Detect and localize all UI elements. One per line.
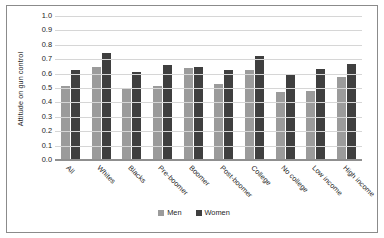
gridline-0.7 <box>55 59 362 60</box>
y-tick-0.8: 0.8 <box>42 41 52 49</box>
x-tick-cell: High income <box>331 162 362 210</box>
y-tick-0.9: 0.9 <box>42 26 52 34</box>
gridline-0.4 <box>55 102 362 103</box>
bar-men-post-boomer <box>214 84 223 159</box>
gridline-1.0 <box>55 16 362 17</box>
gridline-0.0 <box>55 160 362 161</box>
bar-men-high-income <box>337 77 346 159</box>
chart-legend: MenWomen <box>18 208 370 217</box>
x-tick-cell: Whites <box>86 162 117 210</box>
x-tick-cell: Low income <box>301 162 332 210</box>
legend-label-women: Women <box>205 208 230 217</box>
gridline-0.8 <box>55 45 362 46</box>
legend-swatch-women <box>196 210 202 216</box>
x-tick-whites: Whites <box>95 164 117 186</box>
x-tick-cell: College <box>239 162 270 210</box>
plot-area <box>55 16 362 160</box>
legend-swatch-men <box>158 210 164 216</box>
x-axis-tick-labels: AllWhitesBlacksPre-boomerBoomerPost-boom… <box>55 162 362 210</box>
bar-women-whites <box>102 53 111 159</box>
bar-men-pre-boomer <box>153 86 162 159</box>
x-tick-cell: Boomer <box>178 162 209 210</box>
y-tick-1.0: 1.0 <box>42 12 52 20</box>
y-tick-0.3: 0.3 <box>42 113 52 121</box>
y-tick-0.7: 0.7 <box>42 55 52 63</box>
gridline-0.6 <box>55 74 362 75</box>
chart-figure: Attitude on gun control 1.00.90.80.70.60… <box>0 0 384 238</box>
bar-men-blacks <box>122 88 131 159</box>
legend-label-men: Men <box>167 208 181 217</box>
y-axis-tick-labels: 1.00.90.80.70.60.50.40.30.20.10.0 <box>30 16 52 164</box>
plot-wrapper: Attitude on gun control 1.00.90.80.70.60… <box>18 12 370 226</box>
bar-men-low-income <box>306 91 315 159</box>
gridline-0.3 <box>55 117 362 118</box>
x-tick-blacks: Blacks <box>126 164 147 185</box>
x-tick-all: All <box>65 164 77 176</box>
x-tick-cell: All <box>55 162 86 210</box>
gridline-0.9 <box>55 30 362 31</box>
y-tick-0.6: 0.6 <box>42 70 52 78</box>
y-axis-title: Attitude on gun control <box>16 14 28 164</box>
gridline-0.2 <box>55 131 362 132</box>
gridline-0.1 <box>55 146 362 147</box>
x-tick-cell: Pre-boomer <box>147 162 178 210</box>
gridline-0.5 <box>55 88 362 89</box>
y-tick-0.5: 0.5 <box>42 84 52 92</box>
x-tick-cell: No college <box>270 162 301 210</box>
legend-item-men: Men <box>158 208 181 217</box>
x-tick-cell: Blacks <box>116 162 147 210</box>
bar-women-college <box>255 56 264 159</box>
x-tick-cell: Post-boomer <box>209 162 240 210</box>
y-tick-0.4: 0.4 <box>42 98 52 106</box>
legend-item-women: Women <box>196 208 230 217</box>
y-tick-0.2: 0.2 <box>42 127 52 135</box>
y-tick-0.0: 0.0 <box>42 156 52 164</box>
x-tick-college: College <box>249 164 272 187</box>
y-tick-0.1: 0.1 <box>42 142 52 150</box>
bar-men-all <box>61 86 70 159</box>
